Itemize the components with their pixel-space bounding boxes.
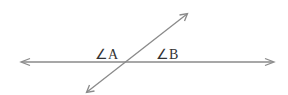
diagram-canvas: ∠A ∠B — [0, 0, 288, 95]
angle-a-label: ∠A — [95, 47, 119, 62]
angle-b-label: ∠B — [156, 47, 178, 62]
horizontal-line — [21, 59, 274, 66]
